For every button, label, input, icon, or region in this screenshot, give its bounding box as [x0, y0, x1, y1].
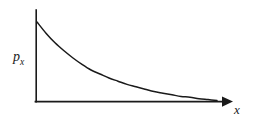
x-axis-arrowhead [222, 96, 233, 106]
y-axis-label-base: p [13, 49, 20, 64]
y-axis-label: px [13, 50, 24, 67]
y-axis-label-subscript: x [20, 57, 24, 67]
plot-canvas [0, 0, 253, 121]
decay-curve [37, 22, 217, 100]
figure-container: px x [0, 0, 253, 121]
x-axis-label: x [234, 103, 240, 116]
